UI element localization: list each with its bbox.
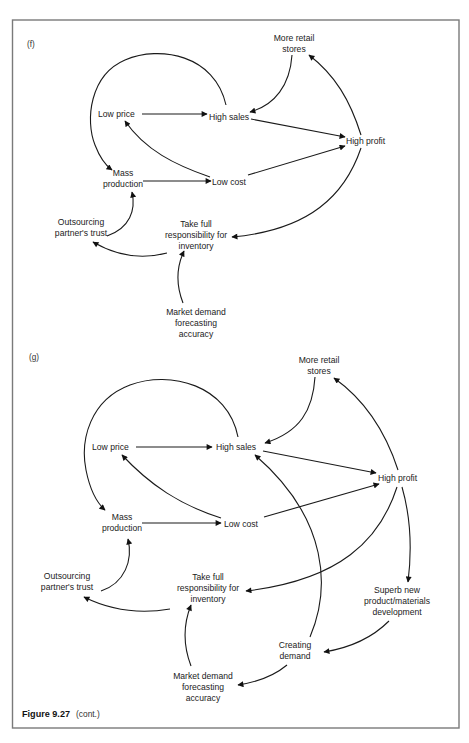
node-label-line: partner's trust: [41, 582, 94, 592]
node-outsourcing-partners-trust: Outsourcingpartner's trust: [41, 571, 94, 592]
node-label-line: responsibility for: [177, 583, 239, 593]
node-take-full-responsibility: Take fullresponsibility forinventory: [177, 572, 239, 604]
panel-g-diagram: (g) More retailstoresLow priceHigh sales…: [29, 353, 430, 703]
node-label-line: More retail: [299, 355, 340, 365]
node-label-line: production: [102, 523, 142, 533]
node-take-full-responsibility: Take fullresponsibility forinventory: [165, 219, 227, 251]
causal-loop-figure: (f) More retailstoresLow priceHigh sales…: [0, 0, 469, 743]
arrow-low-cost-to-high-profit: [264, 484, 379, 517]
node-mass-production: Massproduction: [103, 168, 143, 189]
node-label-line: Low price: [92, 442, 129, 452]
arrow-high-profit-to-more-retail-stores: [334, 378, 398, 470]
node-label-line: stores: [307, 366, 330, 376]
node-label-line: inventory: [179, 241, 215, 251]
node-label-line: Superb new: [374, 585, 421, 595]
node-outsourcing-partners-trust: Outsourcingpartner's trust: [55, 217, 108, 238]
node-mass-production: Massproduction: [102, 512, 142, 533]
node-creating-demand: Creatingdemand: [279, 640, 312, 661]
node-label-line: High sales: [216, 442, 256, 452]
node-label-line: Take full: [180, 219, 212, 229]
node-label-line: Market demand: [166, 307, 226, 317]
arrow-take-full-responsibility-to-outsourcing-partners-trust: [93, 242, 167, 256]
node-label-line: Mass: [113, 168, 134, 178]
node-label-line: production: [103, 179, 143, 189]
node-high-sales: High sales: [216, 442, 256, 452]
node-label-line: partner's trust: [55, 228, 108, 238]
node-label-line: Market demand: [173, 671, 233, 681]
arrow-more-retail-stores-to-high-sales: [250, 55, 292, 112]
panel-f-nodes: More retailstoresLow priceHigh salesHigh…: [55, 33, 386, 339]
node-label-line: Creating: [279, 640, 312, 650]
node-market-demand-forecasting: Market demandforecastingaccuracy: [173, 671, 233, 703]
node-low-price: Low price: [98, 109, 135, 119]
panel-f-label: (f): [27, 40, 35, 49]
node-label-line: forecasting: [182, 682, 224, 692]
arrow-creating-demand-to-high-sales: [255, 455, 321, 637]
figure-caption-label: Figure 9.27: [22, 709, 70, 719]
arrow-low-cost-to-low-price: [125, 121, 210, 177]
node-market-demand-forecasting: Market demandforecastingaccuracy: [166, 307, 226, 339]
node-label-line: Low price: [98, 109, 135, 119]
node-label-line: accuracy: [179, 329, 214, 339]
node-high-profit: High profit: [346, 136, 386, 146]
node-label-line: inventory: [191, 594, 227, 604]
node-low-cost: Low cost: [224, 519, 259, 529]
node-label-line: Outsourcing: [44, 571, 91, 581]
node-label-line: forecasting: [175, 318, 217, 328]
node-superb-new-product-materials-development: Superb newproduct/materialsdevelopment: [364, 585, 430, 617]
arrow-take-full-responsibility-to-outsourcing-partners-trust: [84, 597, 170, 611]
arrow-more-retail-stores-to-high-sales: [265, 377, 315, 443]
node-label-line: High profit: [346, 136, 386, 146]
node-label-line: accuracy: [186, 693, 221, 703]
node-label-line: High profit: [378, 473, 418, 483]
node-label-line: Take full: [192, 572, 224, 582]
node-label-line: High sales: [209, 112, 249, 122]
node-label-line: responsibility for: [165, 230, 227, 240]
node-label-line: Mass: [112, 512, 133, 522]
arrow-high-profit-to-superb-new-product-materials-development: [402, 487, 410, 582]
arrow-high-sales-to-high-profit: [263, 451, 376, 473]
arrow-market-demand-forecasting-to-take-full-responsibility: [185, 605, 191, 666]
node-label-line: Outsourcing: [58, 217, 105, 227]
panel-g-label: (g): [29, 353, 39, 362]
node-label-line: Low cost: [224, 519, 259, 529]
node-label-line: stores: [282, 44, 305, 54]
node-high-profit: High profit: [378, 473, 418, 483]
arrow-high-profit-to-more-retail-stores: [309, 55, 361, 135]
figure-caption-suffix: (cont.): [76, 709, 100, 719]
node-label-line: demand: [279, 651, 310, 661]
arrow-outsourcing-partners-trust-to-mass-production: [107, 192, 133, 236]
arrow-outsourcing-partners-trust-to-mass-production: [101, 539, 129, 591]
arrow-high-sales-to-high-profit: [251, 119, 345, 137]
node-high-sales: High sales: [209, 112, 249, 122]
arrow-low-cost-to-low-price: [122, 455, 221, 518]
arrow-low-cost-to-high-profit: [248, 146, 345, 175]
node-more-retail-stores: More retailstores: [274, 33, 315, 54]
arrow-market-demand-forecasting-to-take-full-responsibility: [178, 251, 184, 303]
node-low-price: Low price: [92, 442, 129, 452]
node-more-retail-stores: More retailstores: [299, 355, 340, 376]
node-low-cost: Low cost: [212, 177, 247, 187]
node-label-line: product/materials: [364, 596, 430, 606]
arrow-creating-demand-to-market-demand-forecasting: [238, 665, 287, 685]
figure-frame: [13, 20, 460, 728]
arrow-superb-new-product-materials-development-to-creating-demand: [324, 621, 389, 652]
node-label-line: Low cost: [212, 177, 247, 187]
figure-caption: Figure 9.27 (cont.): [22, 709, 100, 719]
node-label-line: More retail: [274, 33, 315, 43]
panel-f-diagram: (f) More retailstoresLow priceHigh sales…: [27, 33, 386, 339]
arrow-high-profit-to-take-full-responsibility: [232, 148, 361, 237]
node-label-line: development: [372, 607, 422, 617]
